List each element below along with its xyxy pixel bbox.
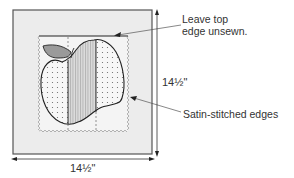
height-arrow-bottom — [155, 151, 159, 157]
height-dimension-label: 14½" — [162, 76, 187, 88]
callout-satin-edges: Satin-stitched edges — [183, 108, 278, 120]
callout-top-edge-line1: Leave top — [182, 13, 228, 25]
quilt-block-diagram — [0, 0, 294, 178]
width-arrow-right — [149, 157, 155, 161]
height-arrow-top — [155, 9, 159, 15]
width-dimension-label: 14½" — [70, 162, 95, 174]
callout-top-edge-line2: edge unsewn. — [182, 25, 247, 37]
width-arrow-left — [11, 157, 17, 161]
